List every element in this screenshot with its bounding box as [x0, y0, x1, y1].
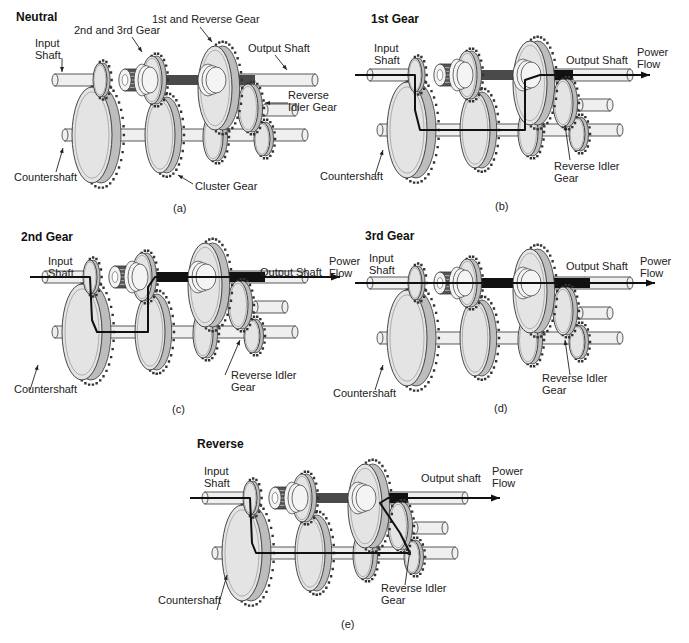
label-input-shaft: Input Shaft — [369, 252, 395, 276]
synchronizer-sleeve — [134, 64, 158, 96]
panel-title: 2nd Gear — [21, 230, 73, 244]
label-countershaft: Countershaft — [14, 171, 77, 183]
label-output-shaft: Output Shaft — [566, 260, 628, 272]
panel-title: Reverse — [197, 437, 244, 451]
label-input-shaft: Input Shaft — [48, 255, 74, 279]
panel-caption: (c) — [172, 403, 185, 415]
label-reverse-idler-gear: Reverse Idler Gear — [381, 582, 446, 606]
panel-title: Neutral — [16, 10, 57, 24]
label-output-shaft: Output Shaft — [260, 266, 322, 278]
panel-caption: (a) — [173, 202, 186, 214]
reverse-idler-shaft — [577, 307, 613, 319]
panel-3rd-gear: 3rd Gear Input Shaft Output Shaft Power … — [345, 215, 689, 420]
1st-gear-drawing — [345, 0, 689, 215]
label-cluster-gear: Cluster Gear — [195, 180, 257, 192]
panel-1st-gear: 1st Gear Input Shaft Output Shaft Power … — [345, 0, 689, 215]
reverse-idler-shaft — [577, 99, 613, 111]
arrowhead-icon — [641, 72, 650, 79]
synchronizer-sleeve — [284, 482, 308, 514]
label-countershaft: Countershaft — [333, 387, 396, 399]
label-1st-reverse-gear: 1st and Reverse Gear — [152, 13, 260, 25]
label-reverse-idler-gear: Reverse Idler Gear — [288, 89, 337, 113]
label-power-flow: Power Flow — [640, 255, 671, 279]
pointer-cluster-gear — [178, 175, 193, 184]
reverse-gear-drawing — [170, 420, 530, 643]
pointer-2nd-3rd-gear — [132, 37, 142, 52]
label-input-shaft: Input Shaft — [204, 465, 230, 489]
label-countershaft: Countershaft — [320, 170, 383, 182]
label-power-flow: Power Flow — [637, 46, 668, 70]
pointer-1st-reverse-gear — [200, 27, 212, 42]
label-input-shaft: Input Shaft — [374, 42, 400, 66]
cluster-gear-drive — [387, 284, 440, 392]
synchronizer-sleeve — [124, 261, 148, 293]
reverse-idler-shaft — [412, 522, 448, 534]
label-power-flow: Power Flow — [492, 465, 523, 489]
label-reverse-idler-gear: Reverse Idler Gear — [231, 369, 296, 393]
cluster-gear-drive — [72, 81, 125, 189]
pointer-output-shaft — [275, 55, 287, 70]
arrowhead-icon — [491, 495, 500, 502]
panel-neutral: Neutral Input Shaft 2nd and 3rd Gear 1st… — [0, 0, 345, 215]
3rd-gear-drawing — [345, 215, 689, 420]
label-countershaft: Countershaft — [14, 383, 77, 395]
panel-caption: (d) — [494, 402, 507, 414]
synchronizer-sleeve — [449, 59, 473, 91]
label-output-shaft: Output Shaft — [566, 54, 628, 66]
label-reverse-idler-gear: Reverse Idler Gear — [542, 372, 607, 396]
label-2nd-3rd-gear: 2nd and 3rd Gear — [74, 24, 160, 36]
reverse-idler-shaft — [252, 301, 288, 313]
label-input-shaft: Input Shaft — [35, 37, 61, 61]
pointer-countershaft — [56, 148, 64, 172]
panel-caption: (e) — [341, 618, 354, 630]
panel-2nd-gear: 2nd Gear Input Shaft Output Shaft Power … — [0, 215, 345, 420]
panel-title: 1st Gear — [371, 12, 419, 26]
panel-title: 3rd Gear — [365, 229, 414, 243]
label-countershaft: Countershaft — [158, 594, 221, 606]
panel-caption: (b) — [495, 200, 508, 212]
arrowhead-icon — [646, 280, 655, 287]
panel-reverse: Reverse Input Shaft Output shaft Power F… — [170, 420, 530, 643]
label-reverse-idler-gear: Reverse Idler Gear — [554, 160, 619, 184]
label-output-shaft: Output shaft — [421, 472, 481, 484]
label-output-shaft: Output Shaft — [248, 42, 310, 54]
input-gear — [93, 59, 113, 100]
